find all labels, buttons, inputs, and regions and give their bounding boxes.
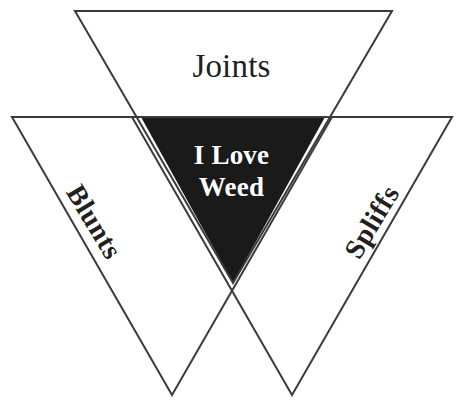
label-joints: Joints <box>0 50 463 83</box>
diagram-canvas: Joints I Love Weed Blunts Spliffs <box>0 0 463 404</box>
